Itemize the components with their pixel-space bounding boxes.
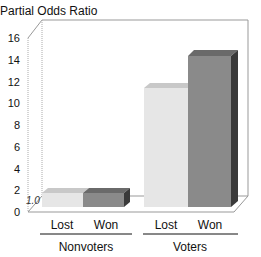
svg-text:8: 8 (14, 119, 20, 131)
svg-text:Won: Won (94, 218, 118, 232)
annotation-1-0: 1.0 (26, 195, 40, 206)
bar-voters-won (188, 50, 238, 207)
svg-text:0: 0 (14, 206, 20, 218)
bar-voters-lost (144, 83, 194, 207)
svg-text:14: 14 (8, 54, 20, 66)
svg-text:Lost: Lost (155, 218, 178, 232)
svg-text:Lost: Lost (51, 218, 74, 232)
bar-nonvoters-lost (42, 188, 89, 207)
chart-canvas: 16 14 12 10 8 6 4 2 0 1.0 Lost Won Lost … (0, 0, 261, 257)
svg-text:6: 6 (14, 141, 20, 153)
x-labels: Lost Won Lost Won (51, 218, 223, 232)
svg-text:10: 10 (8, 97, 20, 109)
svg-text:16: 16 (8, 32, 20, 44)
svg-text:12: 12 (8, 76, 20, 88)
svg-text:4: 4 (14, 163, 20, 175)
group-label-voters: Voters (173, 240, 207, 254)
svg-text:2: 2 (14, 184, 20, 196)
group-label-nonvoters: Nonvoters (59, 240, 114, 254)
svg-text:Won: Won (198, 218, 222, 232)
bar-nonvoters-won (83, 188, 130, 207)
y-ticks: 16 14 12 10 8 6 4 2 0 (8, 32, 20, 218)
